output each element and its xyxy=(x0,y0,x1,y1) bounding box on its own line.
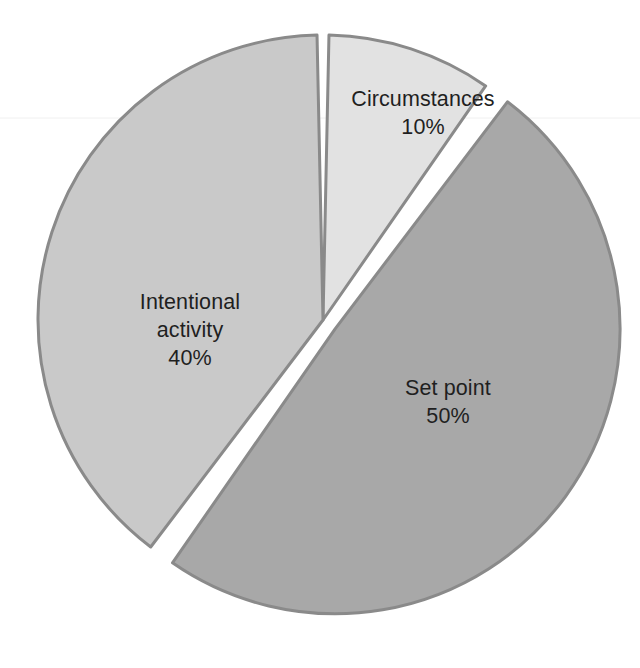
pie-chart-canvas: Circumstances 10% Set point 50% Intentio… xyxy=(0,0,640,668)
slice-value-set-point: 50% xyxy=(426,404,469,428)
slice-label-intentional-activity-line1: Intentional xyxy=(140,290,240,314)
slice-value-circumstances: 10% xyxy=(401,115,444,139)
slice-label-circumstances: Circumstances xyxy=(351,87,494,111)
slice-label-set-point: Set point xyxy=(405,376,491,400)
slice-value-intentional-activity: 40% xyxy=(168,346,211,370)
slice-label-intentional-activity-line2: activity xyxy=(157,318,224,342)
pie-chart: Circumstances 10% Set point 50% Intentio… xyxy=(0,0,640,668)
